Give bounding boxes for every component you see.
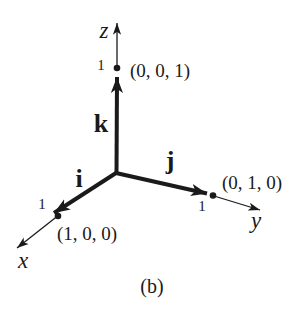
unit-point-z-label: (0, 0, 1) [130, 61, 190, 80]
unit-point-x-dot [55, 213, 62, 220]
vector-j-arrow [116, 173, 207, 194]
unit-point-y-label: (0, 1, 0) [222, 173, 282, 192]
axes-svg [0, 0, 298, 316]
unit-point-z-dot [114, 65, 121, 72]
z-axis-label: z [100, 19, 109, 42]
vector-i-arrow [54, 173, 116, 213]
unit-point-x-label: (1, 0, 0) [57, 224, 117, 243]
unit-point-y-dot [210, 192, 217, 199]
basis-vectors-figure: z x y k i j 1 1 1 (0, 0, 1) (0, 1, 0) (1… [0, 0, 298, 316]
z-tick-label: 1 [97, 58, 105, 73]
vector-k-label: k [94, 111, 108, 137]
x-axis-label: x [18, 249, 28, 272]
x-tick-label: 1 [38, 197, 46, 212]
figure-caption: (b) [140, 276, 163, 296]
vector-i-label: i [75, 166, 82, 192]
vector-k-arrow [117, 77, 118, 173]
x-axis-line [17, 217, 57, 249]
y-axis-label: y [251, 209, 261, 232]
vector-j-label: j [166, 148, 175, 174]
y-tick-label: 1 [198, 199, 206, 214]
